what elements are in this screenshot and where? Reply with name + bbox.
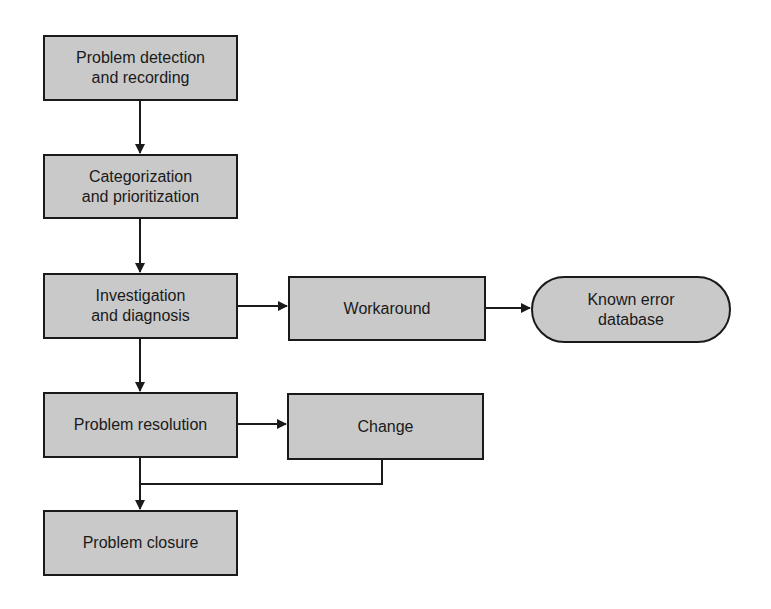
node-categorization: Categorization and prioritization xyxy=(43,154,238,219)
node-change: Change xyxy=(287,393,484,460)
node-known-error-database: Known error database xyxy=(531,276,731,343)
node-investigation: Investigation and diagnosis xyxy=(43,273,238,339)
node-problem-resolution: Problem resolution xyxy=(43,392,238,458)
node-problem-detection: Problem detection and recording xyxy=(43,35,238,101)
edge-change-closure xyxy=(140,459,382,484)
node-problem-closure: Problem closure xyxy=(43,510,238,576)
node-workaround: Workaround xyxy=(288,276,486,341)
